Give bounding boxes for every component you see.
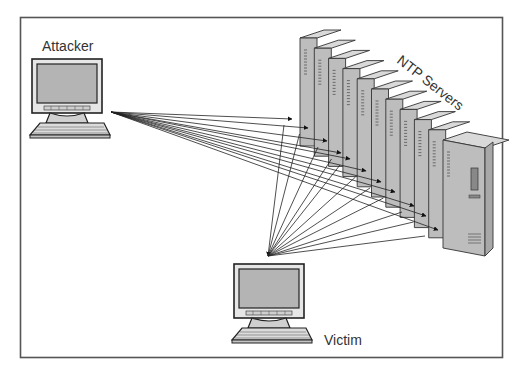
response-arrow xyxy=(268,222,414,256)
diagram-canvas: Attacker Victim NTP Servers xyxy=(0,0,518,371)
response-arrow xyxy=(268,198,384,256)
response-arrow xyxy=(268,236,425,256)
response-arrow xyxy=(268,212,402,256)
victim-label: Victim xyxy=(324,332,362,348)
response-arrow xyxy=(268,165,340,256)
attacker-label: Attacker xyxy=(42,38,94,54)
attacker-computer-icon xyxy=(30,59,110,138)
server-tower xyxy=(443,132,509,256)
victim-computer-icon xyxy=(232,264,312,343)
